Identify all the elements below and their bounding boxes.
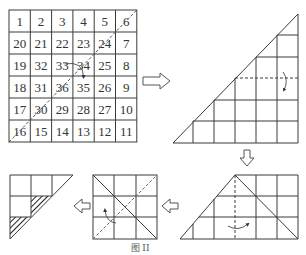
grid-cell-number: 32 — [34, 58, 47, 73]
grid-cell-number: 21 — [34, 36, 47, 51]
grid-cell-number: 17 — [13, 102, 27, 117]
grid-cell-number: 14 — [56, 124, 70, 139]
grid-cell-number: 5 — [102, 14, 109, 29]
step-1-triangle — [173, 14, 298, 143]
grid-cell-number: 2 — [38, 14, 45, 29]
grid-cell-number: 19 — [13, 58, 26, 73]
arrow-right-icon — [143, 73, 170, 89]
arrow-left-icon — [74, 199, 90, 213]
step-4-triangle — [10, 175, 73, 239]
grid-cell-number: 13 — [77, 124, 90, 139]
grid-cell-number: 20 — [13, 36, 26, 51]
grid-cell-number: 10 — [120, 102, 133, 117]
grid-cell-number: 9 — [123, 80, 130, 95]
grid-cell-number: 29 — [56, 102, 69, 117]
grid-cell-number: 18 — [13, 80, 26, 95]
grid-cell-number: 33 — [56, 58, 69, 73]
grid-cell-number: 27 — [98, 102, 112, 117]
figure-caption: 图 II — [131, 243, 150, 253]
grid-cell-number: 28 — [77, 102, 90, 117]
number-grid: 1234562021222324719323334258183136352691… — [9, 10, 137, 142]
grid-cell-number: 12 — [98, 124, 111, 139]
grid-cell-number: 26 — [98, 80, 112, 95]
arrow-down-icon — [240, 150, 254, 166]
arrow-left-icon — [162, 199, 178, 213]
grid-cell-number: 1 — [16, 14, 23, 29]
folding-diagram: 1234562021222324719323334258183136352691… — [0, 0, 306, 255]
step-3-square — [93, 175, 157, 239]
grid-cell-number: 15 — [34, 124, 47, 139]
grid-cell-number: 3 — [59, 14, 66, 29]
grid-cell-number: 6 — [123, 14, 130, 29]
grid-cell-number: 35 — [77, 80, 90, 95]
grid-cell-number: 23 — [77, 36, 90, 51]
grid-cell-number: 7 — [123, 36, 130, 51]
grid-cell-number: 11 — [120, 124, 133, 139]
grid-cell-number: 25 — [98, 58, 111, 73]
grid-cell-number: 31 — [34, 80, 47, 95]
grid-cell-number: 8 — [123, 58, 130, 73]
grid-cell-number: 4 — [80, 14, 87, 29]
step-2-trapezoid — [180, 175, 298, 239]
grid-cell-number: 22 — [56, 36, 69, 51]
